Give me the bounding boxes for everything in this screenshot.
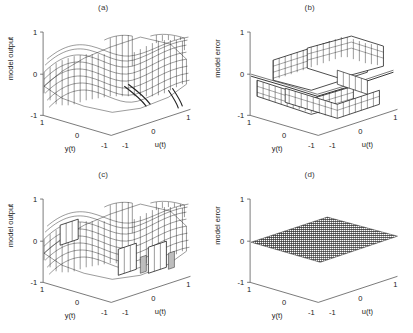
panel-b-ylabel: u(t) <box>361 140 373 149</box>
panel-b: (b) model error 1 0 -1 1 0 -1 -1 <box>207 0 413 167</box>
svg-text:1: 1 <box>40 285 44 294</box>
svg-text:0: 0 <box>282 298 286 307</box>
panel-b-plot: 1 0 -1 1 0 -1 -1 0 1 y(t) u(t) <box>207 14 413 167</box>
svg-text:0: 0 <box>151 127 155 136</box>
panel-a-ylabel: u(t) <box>155 140 167 149</box>
panel-c-surface <box>44 201 189 279</box>
panel-d: (d) model error 1 0 <box>207 167 413 333</box>
panel-a-plot: 1 0 -1 1 0 -1 -1 0 1 y(t) u(t) <box>0 14 207 167</box>
svg-text:1: 1 <box>33 195 37 204</box>
panel-a-xlabel: y(t) <box>65 144 76 153</box>
svg-text:-1: -1 <box>237 278 244 287</box>
panel-a-title: (a) <box>0 3 207 12</box>
svg-text:0: 0 <box>151 294 155 303</box>
figure-grid: (a) model output 1 0 -1 1 0 -1 -1 <box>0 0 413 333</box>
svg-text:1: 1 <box>393 280 397 289</box>
svg-text:1: 1 <box>33 28 37 37</box>
svg-text:0: 0 <box>239 70 243 79</box>
svg-text:-1: -1 <box>307 141 314 150</box>
panel-d-surface <box>251 217 397 262</box>
panel-a: (a) model output 1 0 -1 1 0 -1 -1 <box>0 0 207 167</box>
panel-a-svg: 1 0 -1 1 0 -1 -1 0 1 y(t) u(t) <box>0 14 207 167</box>
panel-d-plot: 1 0 -1 1 0 -1 -1 0 1 y(t) u(t) <box>207 181 413 333</box>
svg-text:1: 1 <box>40 118 44 127</box>
panel-d-title: (d) <box>207 170 413 179</box>
svg-text:-1: -1 <box>30 111 37 120</box>
svg-text:-1: -1 <box>122 141 129 150</box>
svg-text:-1: -1 <box>237 111 244 120</box>
svg-text:1: 1 <box>239 195 243 204</box>
svg-text:1: 1 <box>247 285 251 294</box>
panel-c-plot: 1 0 -1 1 0 -1 -1 0 1 y(t) u(t) <box>0 181 207 333</box>
svg-text:-1: -1 <box>101 141 108 150</box>
panel-b-xlabel: y(t) <box>271 144 282 153</box>
panel-d-ylabel: u(t) <box>361 307 373 316</box>
svg-text:-1: -1 <box>307 308 314 317</box>
panel-d-xlabel: y(t) <box>271 311 282 320</box>
panel-b-title: (b) <box>207 3 413 12</box>
panel-c-title: (c) <box>0 170 207 179</box>
svg-text:0: 0 <box>239 237 243 246</box>
svg-text:1: 1 <box>247 118 251 127</box>
svg-text:-1: -1 <box>328 141 335 150</box>
panel-b-svg: 1 0 -1 1 0 -1 -1 0 1 y(t) u(t) <box>207 14 413 167</box>
svg-text:0: 0 <box>33 70 37 79</box>
panel-c: (c) model output 1 0 -1 1 0 -1 -1 <box>0 167 207 333</box>
svg-text:1: 1 <box>186 280 190 289</box>
svg-text:-1: -1 <box>328 308 335 317</box>
svg-text:0: 0 <box>358 294 362 303</box>
svg-text:-1: -1 <box>30 278 37 287</box>
panel-a-surface <box>44 34 189 112</box>
svg-text:0: 0 <box>75 131 79 140</box>
svg-text:1: 1 <box>393 113 397 122</box>
svg-text:0: 0 <box>358 127 362 136</box>
panel-d-svg: 1 0 -1 1 0 -1 -1 0 1 y(t) u(t) <box>207 181 413 333</box>
panel-c-xlabel: y(t) <box>65 311 76 320</box>
svg-text:1: 1 <box>186 113 190 122</box>
svg-text:-1: -1 <box>101 308 108 317</box>
svg-text:-1: -1 <box>122 308 129 317</box>
panel-b-surface <box>251 36 393 118</box>
svg-text:0: 0 <box>33 237 37 246</box>
svg-text:0: 0 <box>282 131 286 140</box>
panel-c-ylabel: u(t) <box>155 307 167 316</box>
svg-text:1: 1 <box>239 28 243 37</box>
panel-c-svg: 1 0 -1 1 0 -1 -1 0 1 y(t) u(t) <box>0 181 207 333</box>
svg-text:0: 0 <box>75 298 79 307</box>
